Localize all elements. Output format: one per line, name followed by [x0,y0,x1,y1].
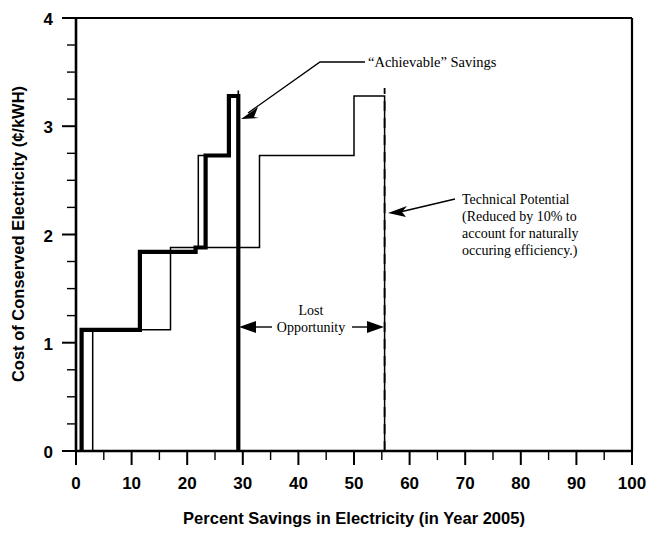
x-tick-label-80: 80 [511,474,530,493]
x-tick-label-0: 0 [71,474,80,493]
lost-opportunity-line-2: Opportunity [277,320,345,335]
y-tick-label-4: 4 [44,10,54,29]
x-tick-label-20: 20 [178,474,197,493]
x-tick-label-30: 30 [233,474,252,493]
x-tick-label-70: 70 [456,474,475,493]
annotation-technical-potential: Technical Potential (Reduced by 10% to a… [388,192,579,259]
x-tick-label-40: 40 [289,474,308,493]
achievable-savings-label: “Achievable” Savings [368,54,497,70]
x-axis-ticks [76,451,632,465]
x-tick-label-50: 50 [345,474,364,493]
lost-opportunity-right-arrowhead-icon [367,321,384,333]
technical-potential-line-4: occuring efficiency.) [462,243,578,259]
y-axis-title: Cost of Conserved Electricity (¢/kWH) [9,86,27,382]
y-tick-label-0: 0 [44,443,53,462]
technical-leader-line [400,199,455,212]
achievable-arrowhead-icon [241,107,259,119]
series-achievable-savings [82,96,239,451]
y-axis-ticks [62,18,76,451]
y-tick-label-1: 1 [44,335,53,354]
chart-svg: 0 10 20 30 40 50 60 70 80 90 100 0 1 2 3… [0,0,648,542]
y-axis-tick-labels: 0 1 2 3 4 [44,10,54,462]
lost-opportunity-line-1: Lost [299,303,324,318]
technical-potential-line-2: (Reduced by 10% to [462,209,577,225]
achievable-leader-line [248,62,365,113]
lost-opportunity-left-arrowhead-icon [239,321,256,333]
y-tick-label-3: 3 [44,118,53,137]
annotation-lost-opportunity: Lost Opportunity [239,303,384,335]
x-tick-label-10: 10 [122,474,141,493]
x-axis-title: Percent Savings in Electricity (in Year … [183,509,525,527]
annotation-achievable-savings: “Achievable” Savings [241,54,497,119]
x-tick-label-100: 100 [618,474,646,493]
y-tick-label-2: 2 [44,227,53,246]
technical-potential-line-3: account for naturally [462,226,579,241]
x-axis-tick-labels: 0 10 20 30 40 50 60 70 80 90 100 [71,474,646,493]
x-tick-label-90: 90 [567,474,586,493]
x-tick-label-60: 60 [400,474,419,493]
technical-potential-line-1: Technical Potential [462,192,570,207]
chart-figure: 0 10 20 30 40 50 60 70 80 90 100 0 1 2 3… [0,0,648,542]
